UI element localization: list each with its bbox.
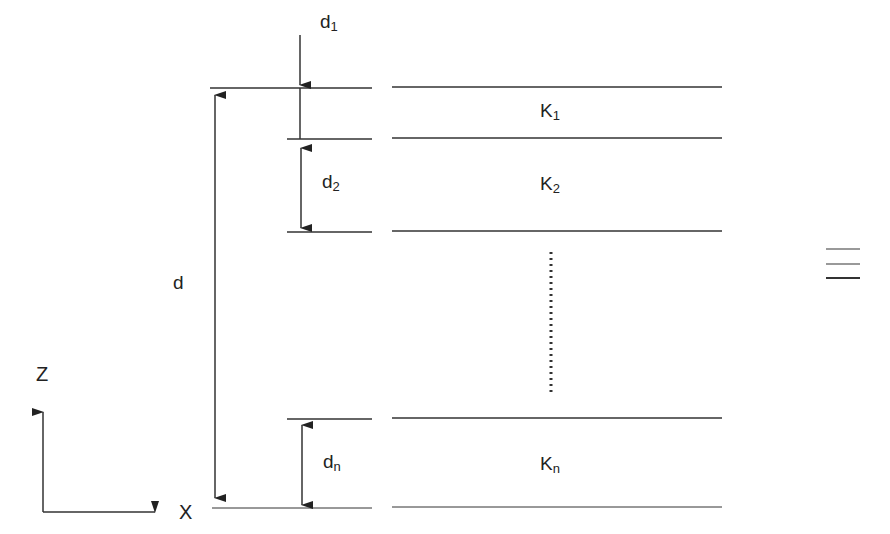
axis-label-x: X	[179, 502, 192, 522]
label-k2: K2	[540, 174, 560, 193]
label-kn: Kn	[540, 454, 560, 473]
axis-label-z: Z	[36, 364, 48, 384]
label-total-d: d	[173, 273, 184, 292]
label-dn: dn	[323, 452, 341, 471]
label-d1: d1	[320, 12, 338, 31]
label-d2: d2	[322, 172, 340, 191]
layered-media-diagram	[0, 0, 890, 534]
label-k1: K1	[540, 101, 560, 120]
